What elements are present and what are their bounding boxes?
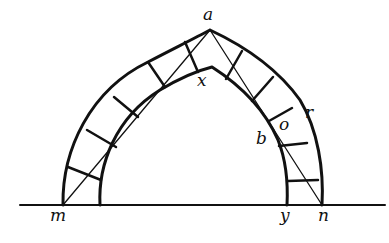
- label-n: n: [318, 207, 329, 224]
- label-a: a: [203, 6, 213, 23]
- label-m: m: [50, 207, 66, 224]
- label-x: x: [197, 72, 207, 89]
- arch-diagram: a x b o r m y n: [0, 0, 389, 243]
- label-o: o: [279, 116, 289, 133]
- label-r: r: [305, 104, 313, 121]
- label-b: b: [256, 130, 267, 147]
- label-y: y: [280, 207, 290, 224]
